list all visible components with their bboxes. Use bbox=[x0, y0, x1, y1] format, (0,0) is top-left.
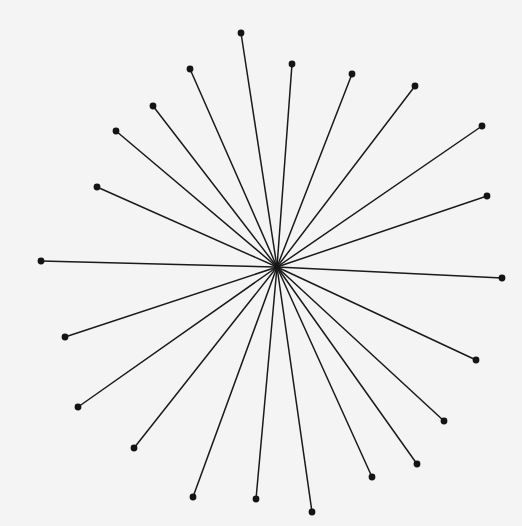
endpoint-dot-17 bbox=[131, 445, 138, 452]
endpoint-dot-12 bbox=[499, 275, 506, 282]
endpoint-dot-1 bbox=[238, 30, 245, 37]
center-hub-group bbox=[274, 264, 279, 269]
endpoint-dot-15 bbox=[75, 404, 82, 411]
endpoint-dot-20 bbox=[369, 474, 376, 481]
endpoint-dot-5 bbox=[412, 83, 419, 90]
endpoint-dot-9 bbox=[94, 184, 101, 191]
endpoint-dot-14 bbox=[473, 357, 480, 364]
endpoint-dot-2 bbox=[289, 61, 296, 68]
endpoint-dot-21 bbox=[253, 496, 260, 503]
endpoint-dot-6 bbox=[150, 103, 157, 110]
starburst-canvas bbox=[0, 0, 522, 526]
endpoint-dot-11 bbox=[38, 258, 45, 265]
endpoint-dot-3 bbox=[187, 66, 194, 73]
endpoint-dot-22 bbox=[309, 509, 316, 516]
endpoint-dot-8 bbox=[479, 123, 486, 130]
endpoint-dot-18 bbox=[414, 461, 421, 468]
endpoint-dot-16 bbox=[441, 418, 448, 425]
endpoint-dot-7 bbox=[113, 128, 120, 135]
endpoint-dot-19 bbox=[190, 494, 197, 501]
endpoint-dot-13 bbox=[62, 334, 69, 341]
starburst-figure bbox=[0, 0, 522, 526]
endpoint-dot-10 bbox=[484, 193, 491, 200]
endpoint-dot-4 bbox=[349, 71, 356, 78]
center-hub-dot bbox=[274, 264, 279, 269]
